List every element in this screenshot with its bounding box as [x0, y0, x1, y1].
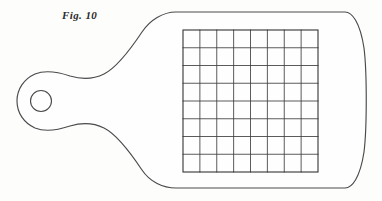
figure-illustration — [0, 0, 382, 201]
figure-sheet: Fig. 10 — [0, 0, 382, 201]
paddle-outline-group — [17, 12, 366, 188]
paddle-outline-path — [17, 12, 366, 188]
handle-hole-circle — [31, 91, 52, 112]
handle-hole-group — [31, 91, 52, 112]
figure-caption: Fig. 10 — [62, 9, 97, 21]
